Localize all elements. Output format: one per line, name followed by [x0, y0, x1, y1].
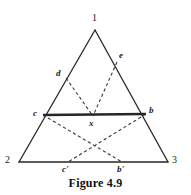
- point-label-x: x: [89, 119, 94, 128]
- point-label-c-prime: c': [62, 165, 69, 174]
- figure-caption: Figure 4.9: [0, 176, 191, 191]
- figure-page: 1 2 3 d e c b x c' b' Figure 4.9: [0, 0, 191, 195]
- edge-e-to-x-dashed: [93, 62, 117, 116]
- edge-d-to-x-dashed: [66, 78, 93, 116]
- vertex-label-2: 2: [5, 155, 10, 165]
- edge-b-to-c-prime-dashed: [68, 114, 146, 162]
- vertex-label-3: 3: [172, 155, 177, 165]
- edge-c-to-b-prime-dashed: [43, 115, 122, 162]
- point-label-d: d: [56, 69, 61, 78]
- edge-apex-to-bottom-left: [19, 30, 95, 162]
- point-label-e: e: [119, 51, 123, 60]
- edge-apex-to-bottom-right: [95, 30, 168, 162]
- triangle-diagram: [0, 0, 191, 195]
- point-label-c: c: [33, 109, 37, 118]
- point-label-b: b: [149, 106, 154, 115]
- vertex-label-1: 1: [92, 13, 97, 23]
- point-label-b-prime: b': [117, 165, 124, 174]
- edge-c-to-b-midline: [43, 114, 146, 115]
